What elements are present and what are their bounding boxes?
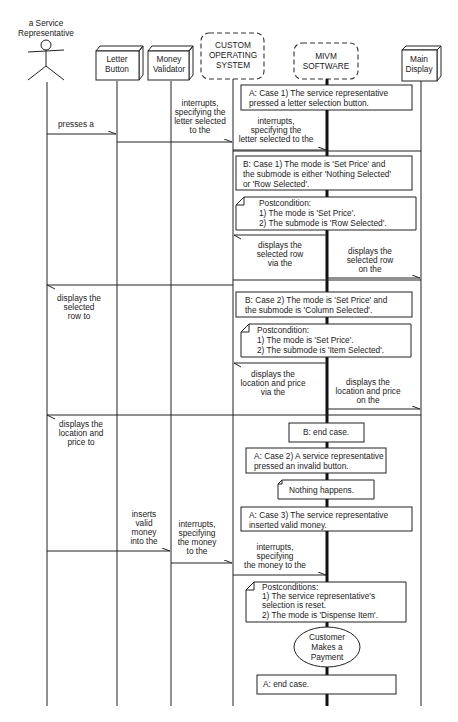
condition-b-case2: B: Case 2) The mode is 'Set Price' and t… [236,292,412,317]
svg-text:to the: to the [190,125,211,135]
message-displays-location-price-on: displays the location and price on the [327,377,420,409]
lifeline-main-display: Main Display [402,46,441,81]
svg-text:A: Case 3) The service represe: A: Case 3) The service representative [249,510,389,520]
svg-text:1) The mode is 'Set Price'.: 1) The mode is 'Set Price'. [259,208,356,218]
condition-b-end: B: end case. [289,423,364,442]
svg-text:via the: via the [268,258,293,268]
money-validator-label-2: Validator [153,64,185,74]
money-validator-label-1: Money [157,54,183,64]
svg-text:inserted valid money.: inserted valid money. [249,520,327,530]
message-displays-selected-row-to: displays the selected row to [47,285,233,321]
svg-text:A: Case 2) A service represent: A: Case 2) A service representative [254,451,384,461]
note-postconditions-3: Postconditions: 1) The service represent… [246,582,406,622]
svg-text:pressed a letter selection but: pressed a letter selection button. [249,98,369,108]
note-nothing-happens: Nothing happens. [278,480,374,499]
main-display-label-2: Display [405,64,433,74]
letter-button-label-1: Letter [106,54,127,64]
lifeline-custom-os: CUSTOM OPERATING SYSTEM [201,33,264,79]
svg-text:B: Case 2) The mode is 'Set Pr: B: Case 2) The mode is 'Set Price' and [245,295,388,305]
svg-text:Customer: Customer [309,632,345,642]
actor-service-representative: a Service Representative [18,18,74,80]
svg-text:the money to the: the money to the [244,560,306,570]
message-interrupts-os-mivm: interrupts, specifying the letter select… [233,116,326,150]
note-postcondition-1: Postcondition: 1) The mode is 'Set Price… [236,197,416,230]
actor-label-line1: a Service [29,18,64,28]
note-postcondition-2: Postcondition: 1) The mode is 'Set Price… [241,324,411,357]
custom-os-label-1: CUSTOM [215,40,251,50]
svg-text:selection is reset.: selection is reset. [262,600,326,610]
message-inserts-valid-money: inserts valid money into the [47,509,170,551]
svg-text:on the: on the [358,264,381,274]
svg-text:or 'Row Selected'.: or 'Row Selected'. [243,179,309,189]
svg-text:the submode is either 'Nothing: the submode is either 'Nothing Selected' [243,169,391,179]
svg-text:letter selected to the: letter selected to the [239,134,314,144]
svg-text:pressed an invalid button.: pressed an invalid button. [254,461,349,471]
mivm-label-2: SOFTWARE [303,61,350,71]
condition-a-case3: A: Case 3) The service representative in… [241,507,412,531]
message-presses-a: presses a [47,119,116,134]
message-displays-selected-row-on: displays the selected row on the [327,246,420,278]
svg-text:to the: to the [187,546,208,556]
actor-label-line2: Representative [18,28,74,38]
message-interrupts-money-os: interrupts, specifying the money to the [171,519,232,563]
message-interrupts-os-mivm-money: interrupts, specifying the money to the [233,542,326,575]
svg-text:2) The submode is 'Row Selecte: 2) The submode is 'Row Selected'. [259,218,387,228]
svg-text:A: Case 1) The service represe: A: Case 1) The service representative [249,88,389,98]
condition-a-end: A: end case. [257,675,396,694]
message-displays-location-price-via: displays the location and price via the [234,363,327,397]
mivm-label-1: MIVM [315,51,337,61]
svg-text:A: end case.: A: end case. [263,679,309,689]
condition-a-case1: A: Case 1) The service representative pr… [241,85,412,110]
svg-text:Makes a: Makes a [311,642,343,652]
custom-os-label-2: OPERATING [209,50,257,60]
svg-text:2) The mode is 'Dispense Item': 2) The mode is 'Dispense Item'. [262,610,378,620]
svg-text:Postcondition:: Postcondition: [257,325,309,335]
lifeline-letter-button: Letter Button [96,46,143,80]
svg-text:B: end case.: B: end case. [303,427,349,437]
svg-text:the submode is 'Column Selecte: the submode is 'Column Selected'. [245,305,372,315]
svg-text:via the: via the [261,387,286,397]
message-interrupts-letter-os: interrupts, specifying the letter select… [117,98,232,142]
message-displays-location-price-to: displays the location and price to [47,415,233,447]
condition-a-case2: A: Case 2) A service representative pres… [246,448,386,473]
message-displays-selected-row-via: displays the selected row via the [234,235,327,268]
svg-text:price to: price to [67,437,95,447]
use-case-customer-makes-payment: Customer Makes a Payment [294,627,360,667]
main-display-label-1: Main [410,54,428,64]
lifeline-money-validator: Money Validator [148,46,193,80]
svg-text:into the: into the [130,536,158,546]
svg-text:Nothing happens.: Nothing happens. [289,485,354,495]
condition-b-case1: B: Case 1) The mode is 'Set Price' and t… [236,156,412,190]
lifeline-mivm-software: MIVM SOFTWARE [294,43,358,79]
svg-text:presses a: presses a [58,119,94,129]
svg-text:2) The submode is 'Item Select: 2) The submode is 'Item Selected'. [257,345,384,355]
svg-text:Postcondition:: Postcondition: [259,198,311,208]
svg-text:1) The mode is 'Set Price'.: 1) The mode is 'Set Price'. [257,335,354,345]
svg-text:Payment: Payment [311,652,344,662]
svg-text:on the: on the [356,395,379,405]
sequence-diagram: a Service Representative Letter Button M… [0,0,458,722]
custom-os-label-3: SYSTEM [216,60,250,70]
svg-text:B: Case 1) The mode is 'Set Pr: B: Case 1) The mode is 'Set Price' and [243,159,386,169]
stick-figure-icon [28,40,64,80]
letter-button-label-2: Button [105,64,129,74]
svg-text:row to: row to [68,311,91,321]
